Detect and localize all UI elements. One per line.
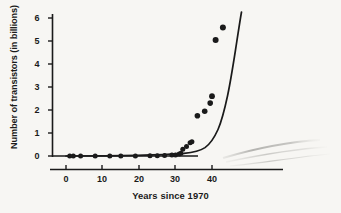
data-point (189, 139, 194, 144)
data-point (155, 153, 160, 158)
data-point (93, 154, 98, 159)
data-point (162, 153, 167, 158)
data-point (195, 113, 201, 119)
data-point (107, 154, 112, 159)
exponential-fit-curve (66, 12, 242, 156)
data-point (220, 24, 226, 30)
data-points (67, 24, 226, 158)
plot-area (0, 0, 341, 213)
data-point (148, 153, 153, 158)
data-point (213, 37, 219, 43)
data-point (78, 154, 83, 159)
scan-smudge-artifacts (223, 140, 330, 166)
data-point (209, 93, 215, 99)
data-point (202, 108, 208, 114)
data-point (71, 154, 76, 159)
data-point (133, 154, 138, 159)
data-point (207, 100, 213, 106)
data-point (184, 144, 189, 149)
data-point (118, 154, 123, 159)
transistor-count-chart: Number of transistors (in billions) Year… (0, 0, 341, 213)
